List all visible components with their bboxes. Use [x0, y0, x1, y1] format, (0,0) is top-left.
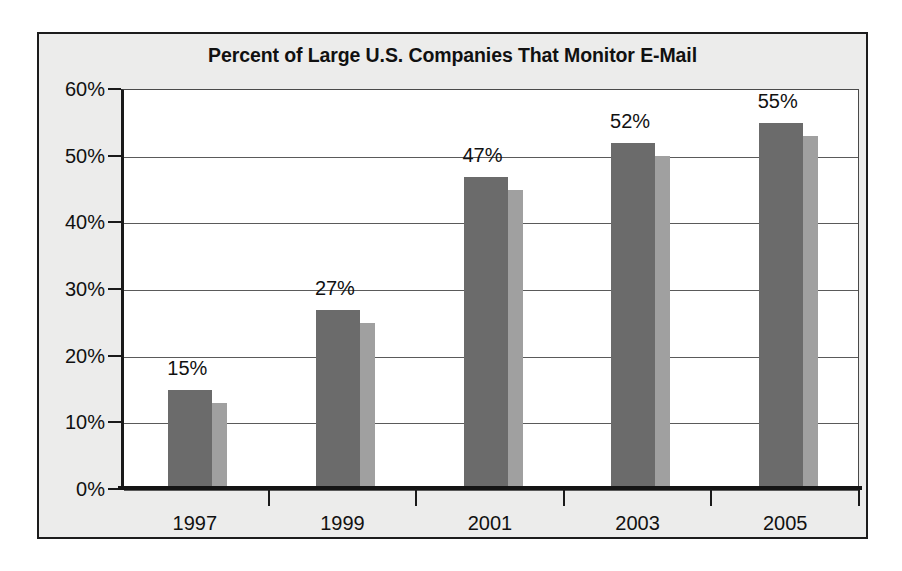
- y-axis-label: 50%: [41, 144, 105, 167]
- bar-value-label-2001: 47%: [443, 144, 523, 167]
- x-axis-label-2003: 2003: [564, 512, 712, 535]
- y-axis-label: 30%: [41, 278, 105, 301]
- x-axis-line: [118, 486, 862, 490]
- x-axis-label-1997: 1997: [121, 512, 269, 535]
- y-tick-40%: [108, 221, 121, 223]
- y-tick-10%: [108, 421, 121, 423]
- x-tick: [268, 489, 270, 506]
- chart-frame: Percent of Large U.S. Companies That Mon…: [37, 32, 868, 539]
- bar-value-label-1999: 27%: [295, 277, 375, 300]
- y-axis-label: 0%: [41, 478, 105, 501]
- y-tick-50%: [108, 155, 121, 157]
- y-axis-label: 20%: [41, 344, 105, 367]
- y-tick-60%: [108, 88, 121, 90]
- x-axis-label-2005: 2005: [711, 512, 859, 535]
- y-axis-label: 40%: [41, 211, 105, 234]
- chart-title: Percent of Large U.S. Companies That Mon…: [39, 44, 866, 67]
- x-axis-label-2001: 2001: [416, 512, 564, 535]
- y-axis-label: 10%: [41, 411, 105, 434]
- chart-figure: Percent of Large U.S. Companies That Mon…: [0, 0, 902, 571]
- x-tick: [563, 489, 565, 506]
- x-axis-label-1999: 1999: [269, 512, 417, 535]
- y-tick-20%: [108, 355, 121, 357]
- x-tick: [415, 489, 417, 506]
- y-axis-label: 60%: [41, 78, 105, 101]
- y-tick-30%: [108, 288, 121, 290]
- bar-value-label-2005: 55%: [738, 90, 818, 113]
- bar-value-label-2003: 52%: [590, 110, 670, 133]
- bar-body: [759, 123, 803, 490]
- x-tick: [858, 489, 860, 506]
- bar-shadow: [803, 136, 818, 490]
- x-tick: [710, 489, 712, 506]
- bar-value-label-1997: 15%: [147, 357, 227, 380]
- gridline-0%: [124, 490, 858, 491]
